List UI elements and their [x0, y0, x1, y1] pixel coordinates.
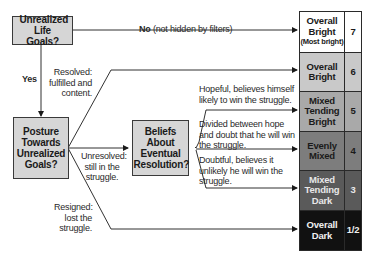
flow-diagram: Unrealized Life Goals? Posture Towards U… [0, 0, 372, 260]
edge-label-no: No (not hidden by filters) [139, 24, 299, 35]
scale-row-4: Evenly Mixed 4 [300, 131, 361, 170]
scale-row-3: Mixed Tending Dark 3 [300, 170, 361, 210]
scale-value: 7 [345, 12, 361, 52]
edge-label-resolved: Resolved: fulfilled and content. [48, 67, 92, 99]
scale-name: Mixed Tending Bright [300, 92, 345, 131]
scale-value: 6 [345, 53, 361, 91]
scale-row-6: Overall Bright 6 [300, 52, 361, 91]
edge-label-divided: Divided between hope and doubt that he w… [199, 119, 295, 151]
scale-row-5: Mixed Tending Bright 5 [300, 91, 361, 131]
edge-label-resigned: Resigned: lost the struggle. [54, 202, 92, 234]
scale-name-text: Overall Bright [307, 15, 338, 37]
scale-row-7: Overall Bright (Most bright) 7 [300, 12, 361, 52]
node-label: Beliefs About Eventual Resolution? [134, 126, 188, 170]
scale-subtext: (Most bright) [300, 37, 344, 48]
scale-name: Overall Bright (Most bright) [300, 12, 345, 52]
brightness-scale: Overall Bright (Most bright) 7 Overall B… [299, 11, 362, 251]
scale-value: 1/2 [345, 211, 361, 250]
scale-value: 5 [345, 92, 361, 131]
edge-label-no-bold: No [139, 24, 151, 34]
edge-label-yes: Yes [22, 74, 37, 85]
scale-value: 3 [345, 171, 361, 210]
scale-value: 4 [345, 132, 361, 170]
edge-label-no-rest: (not hidden by filters) [153, 24, 232, 34]
scale-name: Overall Dark [300, 211, 345, 250]
edge-label-hopeful: Hopeful, believes himself likely to win … [199, 84, 303, 105]
node-label: Unrealized Life Goals? [20, 14, 66, 47]
edge-label-doubtful: Doubtful, believes it unlikely he will w… [199, 155, 295, 187]
node-unrealized-life-goals: Unrealized Life Goals? [12, 16, 73, 45]
scale-name: Mixed Tending Dark [300, 171, 345, 210]
scale-row-1-2: Overall Dark 1/2 [300, 210, 361, 250]
node-label: Posture Towards Unrealized Goals? [16, 126, 66, 170]
edge-label-unresolved: Unresolved: still in the struggle. [81, 151, 123, 183]
scale-name: Evenly Mixed [300, 132, 345, 170]
node-posture-towards-goals: Posture Towards Unrealized Goals? [13, 117, 69, 179]
scale-name: Overall Bright [300, 53, 345, 91]
node-beliefs-about-resolution: Beliefs About Eventual Resolution? [132, 120, 189, 176]
